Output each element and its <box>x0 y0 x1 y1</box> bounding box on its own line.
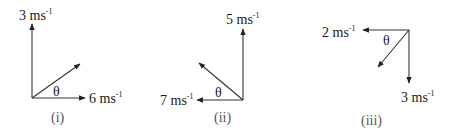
figure-caption: (i) <box>51 110 65 126</box>
horizontal-magnitude-label: 7 ms-1 <box>160 92 194 108</box>
figure-ii: 5 ms-1 7 ms-1 θ (ii) <box>160 11 260 126</box>
horizontal-magnitude-label: 2 ms-1 <box>322 24 356 40</box>
horizontal-magnitude-label: 6 ms-1 <box>89 90 123 106</box>
figure-caption: (iii) <box>361 113 382 129</box>
vertical-magnitude-label: 5 ms-1 <box>226 11 260 27</box>
angle-theta-label: θ <box>215 85 222 100</box>
figure-i: 3 ms-1 6 ms-1 θ (i) <box>19 7 123 126</box>
vertical-magnitude-label: 3 ms-1 <box>401 89 435 105</box>
figure-caption: (ii) <box>214 110 231 126</box>
vector-diagrams: 3 ms-1 6 ms-1 θ (i) 5 ms-1 7 ms-1 θ (ii)… <box>0 0 458 138</box>
angle-theta-label: θ <box>53 84 60 99</box>
figure-iii: 2 ms-1 3 ms-1 θ (iii) <box>322 24 435 129</box>
vertical-magnitude-label: 3 ms-1 <box>19 7 53 23</box>
angle-theta-label: θ <box>383 33 390 48</box>
